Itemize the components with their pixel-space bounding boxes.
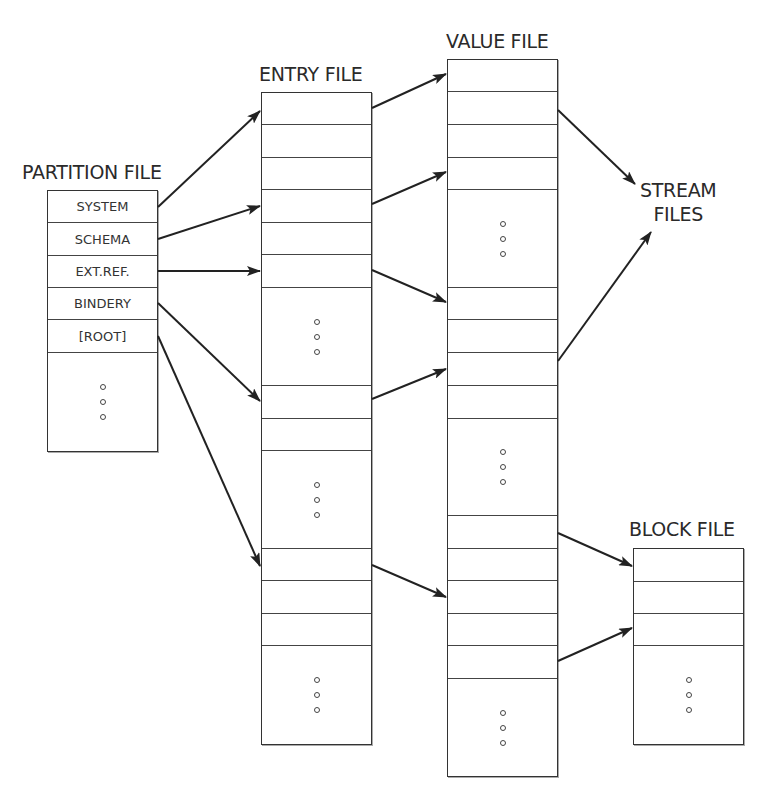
partition-entry-label: EXT.REF. [75, 264, 129, 279]
arrow-root-to-entry [158, 336, 260, 566]
arrow-entry-to-value [372, 172, 446, 204]
ellipsis-dot-icon [500, 479, 506, 485]
partition-entry-root: [ROOT] [48, 320, 157, 353]
entry-record [262, 255, 371, 288]
ellipsis-dot-icon [314, 707, 320, 713]
arrow-system-to-entry [158, 111, 260, 207]
ellipsis-dot-icon [100, 399, 106, 405]
ellipsis-dot-icon [314, 482, 320, 488]
partition-entry-label: SCHEMA [75, 232, 130, 247]
arrow-entry-to-value [372, 565, 446, 597]
ellipsis-dot-icon [500, 740, 506, 746]
ellipsis-dot-icon [314, 692, 320, 698]
value-record [448, 60, 557, 92]
value-record [448, 646, 557, 679]
arrow-value-to-stream-files [558, 110, 635, 184]
entry-file-label: ENTRY FILE [259, 63, 363, 85]
ellipsis-dot-icon [314, 677, 320, 683]
ellipsis-dot-icon [500, 710, 506, 716]
entry-record [262, 125, 371, 158]
value-record [448, 158, 557, 190]
value-record [448, 614, 557, 646]
ellipsis-dot-icon [500, 236, 506, 242]
value-ellipsis [448, 190, 557, 288]
stream-files-label-line1: STREAM [640, 178, 716, 202]
entry-ellipsis [262, 288, 371, 386]
value-file [447, 59, 558, 777]
block-file [633, 548, 744, 745]
entry-file [261, 92, 372, 745]
partition-ellipsis [48, 353, 157, 451]
entry-record [262, 386, 371, 419]
value-ellipsis [448, 419, 557, 516]
arrow-schema-to-entry [158, 206, 260, 239]
ellipsis-dot-icon [314, 334, 320, 340]
arrow-bindery-to-entry [158, 303, 260, 401]
ellipsis-dot-icon [314, 319, 320, 325]
partition-entry-schema: SCHEMA [48, 223, 157, 256]
block-record [634, 549, 743, 582]
value-record [448, 288, 557, 320]
value-record [448, 125, 557, 158]
entry-record [262, 549, 371, 581]
ellipsis-dot-icon [314, 512, 320, 518]
ellipsis-dot-icon [500, 221, 506, 227]
arrow-value-to-stream-files [558, 232, 651, 361]
partition-entry-system: SYSTEM [48, 191, 157, 223]
ellipsis-dot-icon [314, 349, 320, 355]
partition-entry-label: BINDERY [74, 296, 131, 311]
ellipsis-dot-icon [314, 497, 320, 503]
entry-record [262, 158, 371, 190]
entry-record [262, 614, 371, 646]
block-record [634, 614, 743, 646]
partition-entry-ext-ref: EXT.REF. [48, 256, 157, 288]
value-record [448, 516, 557, 549]
partition-file: SYSTEM SCHEMA EXT.REF. BINDERY [ROOT] [47, 190, 158, 452]
ellipsis-dot-icon [500, 449, 506, 455]
entry-record [262, 190, 371, 223]
ellipsis-dot-icon [500, 251, 506, 257]
entry-record [262, 419, 371, 451]
value-record [448, 549, 557, 581]
entry-record [262, 223, 371, 255]
value-record [448, 92, 557, 125]
value-ellipsis [448, 679, 557, 776]
value-record [448, 386, 557, 419]
ellipsis-dot-icon [686, 677, 692, 683]
value-record [448, 581, 557, 614]
entry-record [262, 581, 371, 614]
partition-entry-label: [ROOT] [79, 329, 127, 344]
entry-record [262, 93, 371, 125]
block-record [634, 582, 743, 614]
arrow-entry-to-value [372, 270, 446, 302]
ellipsis-dot-icon [500, 725, 506, 731]
partition-file-label: PARTITION FILE [22, 161, 162, 183]
partition-entry-bindery: BINDERY [48, 288, 157, 320]
stream-files-label: STREAM FILES [640, 178, 716, 226]
ellipsis-dot-icon [100, 384, 106, 390]
stream-files-label-line2: FILES [640, 202, 716, 226]
value-record [448, 320, 557, 353]
partition-entry-label: SYSTEM [77, 199, 129, 214]
ellipsis-dot-icon [686, 707, 692, 713]
arrow-entry-to-value [372, 369, 446, 399]
arrow-value-to-block [558, 533, 632, 566]
entry-ellipsis [262, 451, 371, 549]
ellipsis-dot-icon [100, 414, 106, 420]
arrow-value-to-block [558, 628, 632, 661]
ellipsis-dot-icon [686, 692, 692, 698]
value-record [448, 353, 557, 386]
arrow-entry-to-value [372, 74, 446, 108]
block-ellipsis [634, 646, 743, 744]
ellipsis-dot-icon [500, 464, 506, 470]
entry-ellipsis [262, 646, 371, 744]
value-file-label: VALUE FILE [446, 30, 549, 52]
block-file-label: BLOCK FILE [629, 518, 735, 540]
